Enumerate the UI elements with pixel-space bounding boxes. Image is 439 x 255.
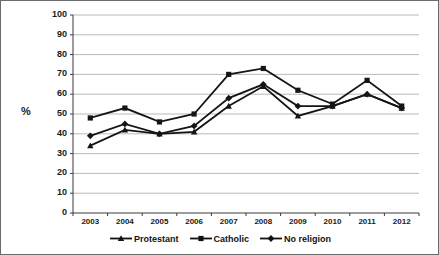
y-tick-label: 50 xyxy=(41,109,67,118)
triangle-marker-icon xyxy=(110,233,132,244)
y-tick-label: 40 xyxy=(41,129,67,138)
chart-plot-svg xyxy=(73,15,419,213)
x-tick-label: 2012 xyxy=(385,217,419,227)
y-tick-label: 60 xyxy=(41,89,67,98)
y-tick-label: 10 xyxy=(41,188,67,197)
square-marker-icon xyxy=(157,119,162,124)
x-axis-tick-labels: 2003200420052006200720082009201020112012 xyxy=(73,217,419,231)
legend-item-catholic[interactable]: Catholic xyxy=(190,233,250,244)
legend-label: No religion xyxy=(284,234,331,244)
square-marker-icon xyxy=(192,111,197,116)
x-tick-label: 2005 xyxy=(143,217,177,227)
y-tick-label: 20 xyxy=(41,168,67,177)
square-marker-icon xyxy=(198,236,203,241)
legend-label: Catholic xyxy=(214,234,250,244)
diamond-marker-icon xyxy=(268,235,275,242)
plot-area xyxy=(73,15,419,213)
x-tick-label: 2011 xyxy=(350,217,384,227)
x-tick-label: 2004 xyxy=(108,217,142,227)
x-tick-label: 2009 xyxy=(281,217,315,227)
square-marker-icon xyxy=(190,233,212,244)
chart-legend: ProtestantCatholicNo religion xyxy=(1,233,439,244)
y-axis-tick-labels: 0102030405060708090100 xyxy=(39,1,67,255)
square-marker-icon xyxy=(88,115,93,120)
series-line xyxy=(90,84,401,135)
legend-item-no-religion[interactable]: No religion xyxy=(260,233,331,244)
legend-item-protestant[interactable]: Protestant xyxy=(110,233,179,244)
series-protestant xyxy=(87,83,405,148)
square-marker-icon xyxy=(295,88,300,93)
x-tick-label: 2008 xyxy=(246,217,280,227)
y-tick-label: 80 xyxy=(41,50,67,59)
diamond-marker-icon xyxy=(260,233,282,244)
square-marker-icon xyxy=(261,66,266,71)
x-tick-label: 2006 xyxy=(177,217,211,227)
y-tick-label: 70 xyxy=(41,69,67,78)
legend-label: Protestant xyxy=(134,234,179,244)
x-tick-label: 2003 xyxy=(73,217,107,227)
square-marker-icon xyxy=(122,105,127,110)
y-axis-title: % xyxy=(21,105,31,117)
x-tick-label: 2010 xyxy=(316,217,350,227)
x-tick-label: 2007 xyxy=(212,217,246,227)
y-tick-label: 30 xyxy=(41,149,67,158)
y-tick-label: 0 xyxy=(41,208,67,217)
chart-frame: % 0102030405060708090100 200320042005200… xyxy=(0,0,439,255)
square-marker-icon xyxy=(365,78,370,83)
y-tick-label: 90 xyxy=(41,30,67,39)
series-line xyxy=(90,86,401,145)
square-marker-icon xyxy=(226,72,231,77)
diamond-marker-icon xyxy=(122,121,129,128)
y-tick-label: 100 xyxy=(41,10,67,19)
